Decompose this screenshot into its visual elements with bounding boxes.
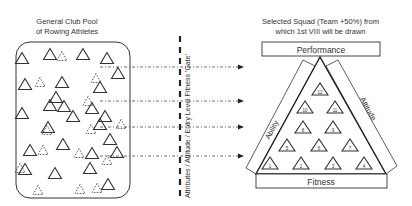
athlete-triangle-icon: [84, 163, 97, 174]
athlete-triangle-icon: [102, 179, 115, 190]
prospect-triangle-icon: [35, 78, 45, 87]
pool-dashed-athletes: [15, 52, 126, 195]
prospect-triangle-icon: [75, 185, 85, 194]
prospect-triangle-icon: [33, 186, 43, 195]
athlete-triangle-icon: [57, 139, 70, 150]
athlete-triangle-icon: [50, 92, 63, 103]
prospect-triangle-icon: [74, 149, 84, 158]
arrowhead-icon: [238, 65, 244, 70]
athlete-triangle-icon: [16, 108, 29, 119]
athlete-triangle-icon: [56, 77, 69, 88]
arrowhead-icon: [238, 99, 244, 104]
athlete-triangle-icon: [19, 79, 32, 90]
prospect-triangle-icon: [91, 74, 101, 83]
fitness-label: Fitness: [307, 177, 334, 187]
athlete-triangle-icon: [112, 68, 125, 79]
athlete-triangle-icon: [16, 53, 29, 64]
athlete-triangle-icon: [101, 53, 114, 64]
athlete-number: 11: [333, 108, 338, 113]
arrowhead-icon: [238, 154, 244, 159]
athlete-triangle-icon: [86, 148, 99, 159]
gate-label: Attributes / Attitude / Entry Level Fitn…: [184, 54, 192, 198]
prospect-triangle-icon: [57, 52, 67, 61]
performance-label: Performance: [297, 45, 346, 55]
athlete-triangle-icon: [104, 134, 117, 145]
athlete-triangle-icon: [94, 119, 107, 130]
athlete-triangle-icon: [94, 82, 107, 93]
athlete-triangle-icon: [49, 168, 62, 179]
prospect-triangle-icon: [38, 146, 48, 155]
athlete-triangle-icon: [67, 111, 80, 122]
pool-solid-athletes: [16, 49, 125, 190]
athlete-triangle-icon: [77, 49, 90, 60]
athlete-number: 12: [317, 90, 323, 95]
arrowhead-icon: [238, 125, 244, 130]
selection-diagram: Attributes / Attitude / Entry Level Fitn…: [0, 0, 412, 206]
athlete-pool-box: [16, 42, 130, 198]
prospect-triangle-icon: [92, 184, 102, 193]
athlete-number: 10: [302, 108, 308, 113]
athlete-triangle-icon: [24, 145, 37, 156]
athlete-triangle-icon: [44, 49, 57, 60]
athlete-triangle-icon: [42, 122, 55, 133]
